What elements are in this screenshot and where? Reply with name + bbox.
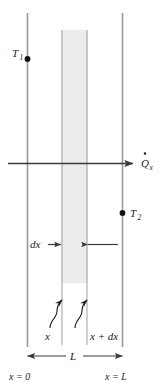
length-dimension: L — [28, 350, 123, 362]
x-plus-dx-position-annotation: x + dx — [75, 300, 118, 342]
t1-label: T — [12, 47, 19, 59]
qdot-label: Q — [141, 157, 149, 169]
x-leader-line — [50, 300, 62, 328]
qdot-overdot-icon — [144, 152, 146, 154]
x-label: x — [44, 330, 50, 342]
differential-element — [62, 30, 88, 345]
t1-dot-icon — [25, 56, 31, 62]
x-plus-dx-label: x + dx — [89, 330, 118, 342]
heat-conduction-diagram: T 1 Q x T 2 dx x x + dx — [0, 0, 164, 392]
x-length-label: x = L — [104, 371, 127, 382]
x-plus-dx-leader-line — [75, 300, 87, 328]
diagram-canvas: T 1 Q x T 2 dx x x + dx — [0, 0, 164, 392]
element-fill — [62, 30, 88, 283]
t2-dot-icon — [120, 210, 126, 216]
t2-label: T — [130, 207, 137, 219]
boundary-position-labels: x = 0 x = L — [8, 371, 127, 382]
qdot-subscript: x — [149, 163, 154, 172]
length-label: L — [69, 350, 76, 362]
x-position-annotation: x — [44, 300, 62, 342]
dx-label: dx — [30, 238, 41, 250]
x-zero-label: x = 0 — [8, 371, 30, 382]
t2-subscript: 2 — [138, 213, 142, 222]
t1-subscript: 1 — [20, 53, 24, 62]
